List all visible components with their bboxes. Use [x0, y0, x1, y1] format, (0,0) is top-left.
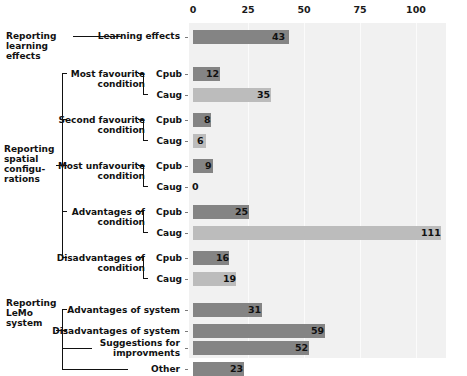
row-tick-mu-cpub	[185, 166, 188, 167]
sub-label-adv-cpub: Cpub	[148, 207, 182, 217]
value-other: 23	[230, 362, 243, 376]
bar-advantages-condition-caug	[193, 226, 441, 240]
row-tick-learning-effects	[185, 37, 188, 38]
plot-area	[189, 23, 446, 358]
category-label-advantages-system: Advantages of system	[50, 305, 180, 315]
row-tick-dis-system	[185, 331, 188, 332]
sub-label-mu-caug: Caug	[148, 182, 182, 192]
category-label-disadvantages-condition: Disadvantages of condition	[55, 253, 145, 273]
bracket-arm-spatial-4	[62, 211, 67, 212]
row-tick-suggestions	[185, 348, 188, 349]
value-advantages-condition-cpub: 25	[235, 205, 248, 219]
bracket-stem-spatial	[56, 165, 63, 166]
group-label-reporting-lemo-system: Reporting LeMo system	[6, 298, 64, 328]
row-tick-mu-caug	[185, 187, 188, 188]
value-learning-effects: 43	[272, 30, 285, 44]
bracket-pair-mf	[143, 73, 144, 94]
row-tick-sf-cpub	[185, 120, 188, 121]
bracket-pair-adv-top	[138, 211, 144, 212]
category-label-disadvantages-system: Disadvantages of system	[50, 326, 180, 336]
x-axis-tick-25: 25	[241, 4, 254, 15]
x-axis-tick-100: 100	[406, 4, 426, 15]
bracket-spine-lemo	[62, 309, 63, 369]
row-tick-adv-caug	[185, 233, 188, 234]
gridline-100	[416, 23, 417, 358]
bar-suggestions-improvements	[193, 341, 309, 355]
sub-label-dis-cpub: Cpub	[148, 253, 182, 263]
category-label-most-unfavourite: Most unfavourite condition	[55, 161, 145, 181]
value-second-favourite-cpub: 8	[204, 113, 211, 127]
bracket-arm-spatial-bottom	[62, 257, 67, 258]
bracket-stem-lemo	[56, 330, 67, 331]
bracket-pair-mu-top	[138, 165, 144, 166]
value-second-favourite-caug: 6	[197, 134, 204, 148]
row-tick-other	[185, 369, 188, 370]
bracket-pair-mf-top	[138, 73, 144, 74]
value-most-unfavourite-cpub: 9	[205, 159, 212, 173]
bracket-pair-mf-bottom	[143, 94, 148, 95]
value-advantages-condition-caug: 111	[421, 226, 441, 240]
bracket-pair-dis-bottom	[143, 278, 148, 279]
group-label-reporting-spatial-configurations: Reporting spatial configu- rations	[4, 144, 64, 184]
value-most-favourite-cpub: 12	[206, 67, 219, 81]
gridline-50	[304, 23, 305, 358]
bracket-pair-dis-top	[138, 257, 144, 258]
x-axis-tick-75: 75	[353, 4, 366, 15]
sub-label-mf-caug: Caug	[148, 90, 182, 100]
value-disadvantages-system: 59	[311, 324, 324, 338]
row-tick-dis-cpub	[185, 258, 188, 259]
row-tick-sf-caug	[185, 141, 188, 142]
row-tick-dis-caug	[185, 279, 188, 280]
bracket-pair-sf-bottom	[143, 140, 148, 141]
sub-label-mf-cpub: Cpub	[148, 69, 182, 79]
connector-learning-effects	[73, 36, 121, 37]
bracket-pair-sf-top	[138, 119, 144, 120]
bracket-arm-lemo-other	[62, 369, 128, 370]
category-label-advantages-condition: Advantages of condition	[55, 207, 145, 227]
bracket-arm-lemo-top	[62, 309, 67, 310]
bar-disadvantages-system	[193, 324, 325, 338]
gridline-75	[360, 23, 361, 358]
bracket-arm-lemo-suggestions	[62, 348, 92, 349]
value-most-unfavourite-caug: 0	[192, 180, 199, 194]
bracket-pair-mu	[143, 165, 144, 186]
bracket-pair-dis	[143, 257, 144, 278]
bracket-arm-spatial-2	[62, 119, 67, 120]
value-most-favourite-caug: 35	[257, 88, 270, 102]
group-label-reporting-learning-effects: Reporting learning effects	[6, 31, 64, 61]
value-disadvantages-condition-cpub: 16	[216, 251, 229, 265]
bracket-pair-adv	[143, 211, 144, 232]
row-tick-adv-system	[185, 310, 188, 311]
row-tick-mf-caug	[185, 95, 188, 96]
sub-label-sf-caug: Caug	[148, 136, 182, 146]
x-axis-tick-0: 0	[190, 4, 197, 15]
value-disadvantages-condition-caug: 19	[223, 272, 236, 286]
value-advantages-system: 31	[248, 303, 261, 317]
x-axis: 0 25 50 75 100	[0, 0, 467, 23]
bracket-pair-sf	[143, 119, 144, 140]
row-tick-adv-cpub	[185, 212, 188, 213]
bracket-arm-spatial-top	[62, 73, 67, 74]
category-label-most-favourite: Most favourite condition	[55, 69, 145, 89]
x-axis-tick-50: 50	[297, 4, 310, 15]
sub-label-sf-cpub: Cpub	[148, 115, 182, 125]
bracket-pair-mu-bottom	[143, 186, 148, 187]
bracket-pair-adv-bottom	[143, 232, 148, 233]
sub-label-adv-caug: Caug	[148, 228, 182, 238]
sub-label-mu-cpub: Cpub	[148, 161, 182, 171]
row-tick-mf-cpub	[185, 74, 188, 75]
category-label-second-favourite: Second favourite condition	[55, 115, 145, 135]
value-suggestions-improvements: 52	[295, 341, 308, 355]
sub-label-dis-caug: Caug	[148, 274, 182, 284]
